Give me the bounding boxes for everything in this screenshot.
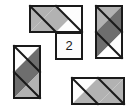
tiling-canvas: 2 xyxy=(0,0,135,112)
tiling-figure: 2 xyxy=(0,0,135,112)
piece-top-horizontal-domino[interactable] xyxy=(30,6,82,32)
piece-center-square[interactable]: 2 xyxy=(56,33,82,59)
piece-left-vertical-domino[interactable] xyxy=(14,46,40,98)
piece-top-right-vertical-domino[interactable] xyxy=(96,6,122,58)
cell-label-2: 2 xyxy=(65,38,72,53)
piece-bottom-horizontal-domino[interactable] xyxy=(72,78,124,104)
